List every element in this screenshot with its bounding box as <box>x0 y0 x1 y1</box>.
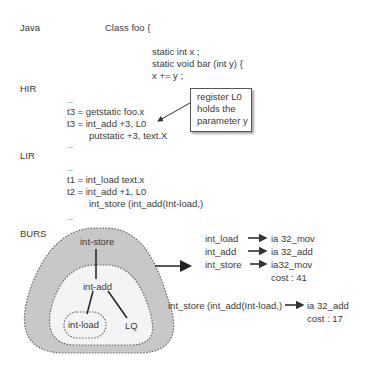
map-to: ia 32_mov <box>271 233 315 244</box>
node-lq: LQ <box>125 320 138 331</box>
callout-pointer <box>158 103 190 121</box>
map-cost: cost : 41 <box>271 272 307 283</box>
map2-to: ia 32_add <box>307 300 349 311</box>
map-from: int_store <box>205 259 241 270</box>
node-int-store: int-store <box>80 236 114 247</box>
map-from: int_add <box>205 246 236 257</box>
map2-from: int_store (int_add(Int-load,) <box>168 300 282 311</box>
map-to: ia 32_add <box>271 246 313 257</box>
burs-label: BURS <box>20 228 46 239</box>
map2-cost: cost : 17 <box>307 313 343 324</box>
node-int-add: int-add <box>83 281 112 292</box>
map-from: int_load <box>205 233 238 244</box>
map-to: ia32_mov <box>271 259 312 270</box>
node-int-load: int-load <box>68 319 99 330</box>
